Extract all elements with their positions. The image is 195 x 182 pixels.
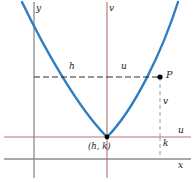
u-segment-label: u (121, 62, 127, 71)
point-P-label: P (166, 70, 172, 80)
point-P-marker (157, 74, 162, 79)
figure-canvas (0, 0, 195, 182)
u-axis-label: u (178, 126, 184, 135)
vertex-label: (h, k) (88, 142, 111, 151)
y-axis-label: y (36, 4, 41, 13)
v-segment-label: v (163, 97, 168, 106)
x-axis-label: x (178, 161, 183, 170)
parabola-translated-axes-figure: y v u x h u v k P (h, k) (0, 0, 195, 182)
v-axis-label: v (109, 4, 114, 13)
k-segment-label: k (163, 139, 168, 148)
vertex-point (105, 135, 110, 140)
parabola-curve (22, 2, 178, 137)
h-segment-label: h (69, 62, 75, 71)
